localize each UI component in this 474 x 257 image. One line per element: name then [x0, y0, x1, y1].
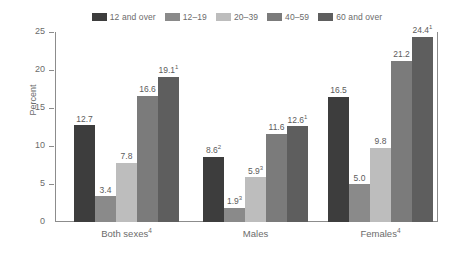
bar-slot: 9.8 [370, 32, 391, 222]
y-tick-label: 5 [20, 178, 45, 188]
bar[interactable] [203, 157, 224, 222]
bar-slot: 19.11 [158, 32, 179, 222]
bar-value-text: 12.6 [288, 115, 305, 125]
bar-value-label: 9.8 [375, 137, 387, 146]
y-tick-label: 25 [20, 26, 45, 36]
y-tick-mark [49, 146, 54, 147]
bar[interactable] [349, 184, 370, 222]
x-axis-label-text: Females [360, 228, 396, 239]
bar-value-text: 12.7 [76, 114, 93, 124]
bar[interactable] [224, 208, 245, 222]
legend-item[interactable]: 20–39 [216, 12, 258, 22]
bar-slot: 12.7 [74, 32, 95, 222]
bar-slot: 3.4 [95, 32, 116, 222]
bar-value-label: 1.93 [227, 197, 242, 206]
legend-label: 12 and over [110, 12, 156, 22]
bar-slot: 11.6 [266, 32, 287, 222]
bar-value-footnote: 1 [304, 114, 307, 120]
bar[interactable] [116, 163, 137, 222]
bar-value-footnote: 2 [218, 144, 221, 150]
bar-slot: 7.8 [116, 32, 137, 222]
legend-item[interactable]: 12–19 [165, 12, 207, 22]
bar-slot: 5.93 [245, 32, 266, 222]
x-axis-label-text: Both sexes [101, 228, 148, 239]
bar[interactable] [412, 37, 433, 222]
bar-group: 16.55.09.821.224.41 [328, 32, 433, 222]
bar-value-text: 16.5 [330, 85, 347, 95]
bar-value-footnote: 1 [175, 65, 178, 71]
bar-slot: 5.0 [349, 32, 370, 222]
bar-value-label: 24.41 [413, 26, 433, 35]
legend-label: 40–59 [285, 12, 309, 22]
bar-value-text: 9.8 [375, 136, 387, 146]
bars-area: 12.73.47.816.619.118.621.935.9311.612.61… [56, 32, 437, 222]
y-tick-label: 10 [20, 140, 45, 150]
legend-item[interactable]: 60 and over [318, 12, 382, 22]
bar-value-text: 3.4 [100, 185, 112, 195]
legend-swatch-icon [92, 13, 107, 21]
x-axis-label: Females4 [360, 228, 400, 239]
y-tick-mark [49, 32, 54, 33]
bar-value-label: 5.93 [248, 167, 263, 176]
legend-label: 12–19 [183, 12, 207, 22]
bar-value-label: 3.4 [100, 186, 112, 195]
bar[interactable] [391, 61, 412, 222]
bar-group: 12.73.47.816.619.11 [74, 32, 179, 222]
bar-value-text: 11.6 [269, 122, 285, 132]
bar-slot: 16.6 [137, 32, 158, 222]
y-tick-mark [49, 70, 54, 71]
legend-swatch-icon [216, 13, 231, 21]
bar-value-label: 12.61 [288, 116, 308, 125]
x-axis-label: Males [243, 228, 268, 239]
x-axis-label-text: Males [243, 228, 268, 239]
x-axis-label-footnote: 4 [148, 227, 152, 234]
bar-slot: 12.61 [287, 32, 308, 222]
y-tick-label: 20 [20, 64, 45, 74]
bar-value-label: 12.7 [76, 115, 93, 124]
legend-label: 20–39 [234, 12, 258, 22]
bar[interactable] [74, 125, 95, 222]
bar[interactable] [158, 77, 179, 222]
bar-value-label: 11.6 [269, 123, 285, 132]
legend-swatch-icon [267, 13, 282, 21]
bar-value-label: 21.2 [393, 50, 410, 59]
bar-value-text: 19.1 [159, 65, 176, 75]
bar-slot: 24.41 [412, 32, 433, 222]
y-tick-mark [49, 184, 54, 185]
bar[interactable] [266, 134, 287, 222]
bar[interactable] [137, 96, 158, 222]
bar-value-footnote: 1 [429, 24, 432, 30]
bar-slot: 8.62 [203, 32, 224, 222]
bar-slot: 21.2 [391, 32, 412, 222]
legend-item[interactable]: 12 and over [92, 12, 156, 22]
bar-value-label: 7.8 [121, 152, 133, 161]
bar[interactable] [370, 148, 391, 222]
bar-value-label: 8.62 [206, 146, 221, 155]
bar-value-text: 8.6 [206, 145, 218, 155]
bar-value-label: 16.5 [330, 86, 347, 95]
bar[interactable] [287, 126, 308, 222]
bar-slot: 1.93 [224, 32, 245, 222]
bar-value-label: 16.6 [139, 85, 156, 94]
legend-item[interactable]: 40–59 [267, 12, 309, 22]
bar-value-footnote: 3 [239, 195, 242, 201]
bar-value-label: 5.0 [354, 174, 366, 183]
y-tick-label: 0 [20, 216, 45, 226]
bar-value-text: 24.4 [413, 25, 430, 35]
bar-group: 8.621.935.9311.612.61 [203, 32, 308, 222]
bar-value-text: 16.6 [139, 84, 156, 94]
legend-swatch-icon [165, 13, 180, 21]
bar-slot: 16.5 [328, 32, 349, 222]
x-axis-label-footnote: 4 [397, 227, 401, 234]
bar[interactable] [245, 177, 266, 222]
chart-legend: 12 and over12–1920–3940–5960 and over [0, 12, 474, 22]
legend-label: 60 and over [336, 12, 382, 22]
y-tick-label: 15 [20, 102, 45, 112]
y-axis-title: Percent [28, 65, 38, 135]
legend-swatch-icon [318, 13, 333, 21]
bar-value-text: 21.2 [393, 49, 410, 59]
bar-value-text: 5.0 [354, 173, 366, 183]
bar[interactable] [95, 196, 116, 222]
bar-value-label: 19.11 [159, 66, 179, 75]
bar[interactable] [328, 97, 349, 222]
